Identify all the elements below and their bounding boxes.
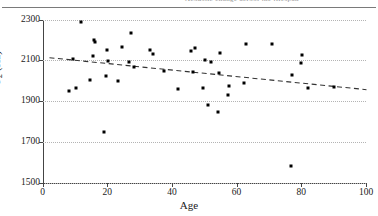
data-point <box>132 65 135 68</box>
data-point <box>217 111 220 114</box>
data-point <box>242 81 245 84</box>
data-point <box>201 87 204 90</box>
data-point <box>91 55 94 58</box>
y-axis-tick-labels: 15001700190021002300 <box>0 0 40 216</box>
data-point <box>104 74 107 77</box>
x-axis-tick-label: 80 <box>297 188 307 198</box>
data-point <box>209 61 212 64</box>
data-point <box>163 70 166 73</box>
data-point <box>80 20 83 23</box>
y-axis-tick-label: 2100 <box>21 55 40 65</box>
running-head-text: Acoustic change across the lifespan <box>185 0 299 3</box>
x-axis-tick-label: 100 <box>359 188 373 198</box>
y-axis-tick-label: 1500 <box>21 178 40 188</box>
running-head: Acoustic change across the lifespan <box>0 0 378 7</box>
regression-line <box>49 57 366 89</box>
data-point <box>207 103 210 106</box>
figure-container: Acoustic change across the lifespan F2 (… <box>0 0 378 216</box>
data-point <box>271 42 274 45</box>
trendline <box>43 20 367 184</box>
plot-area <box>43 20 367 184</box>
data-point <box>106 59 109 62</box>
y-axis-tick-label: 2300 <box>21 15 40 25</box>
data-point <box>102 130 105 133</box>
data-point <box>94 40 97 43</box>
y-axis-tick-label: 1900 <box>21 96 40 106</box>
data-point <box>68 90 71 93</box>
data-point <box>128 61 131 64</box>
data-point <box>226 93 229 96</box>
data-point <box>306 87 309 90</box>
y-axis-tick-label: 1700 <box>21 137 40 147</box>
data-point <box>332 86 335 89</box>
data-point <box>75 86 78 89</box>
data-point <box>116 80 119 83</box>
data-point <box>105 48 108 51</box>
data-point <box>299 61 302 64</box>
data-point <box>192 71 195 74</box>
x-axis-title: Age <box>0 199 378 211</box>
data-point <box>291 73 294 76</box>
data-point <box>219 52 222 55</box>
data-point <box>228 85 231 88</box>
data-point <box>203 59 206 62</box>
data-point <box>218 72 221 75</box>
top-horizontal-rule <box>2 7 376 8</box>
data-point <box>193 47 196 50</box>
data-point <box>121 46 124 49</box>
data-point <box>289 165 292 168</box>
data-point <box>300 53 303 56</box>
data-point <box>176 88 179 91</box>
data-point <box>189 50 192 53</box>
data-point <box>89 79 92 82</box>
x-axis-tick-label: 40 <box>167 188 177 198</box>
x-axis-tick-label: 0 <box>40 188 45 198</box>
data-point <box>71 58 74 61</box>
data-point <box>152 53 155 56</box>
x-axis-tick-label: 60 <box>232 188 242 198</box>
data-point <box>148 49 151 52</box>
data-point <box>245 42 248 45</box>
x-axis-tick-label: 20 <box>102 188 112 198</box>
data-point <box>130 32 133 35</box>
